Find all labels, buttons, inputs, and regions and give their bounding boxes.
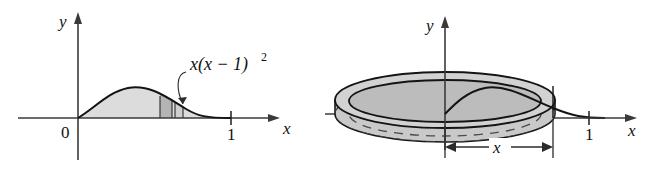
curve-expression-exponent: 2 (261, 50, 267, 64)
panel-solid-of-revolution: y x 1 x (325, 0, 650, 174)
x-tick-label-one: 1 (585, 125, 594, 144)
curve-expression-label: x(x − 1) (189, 54, 248, 75)
left-diagram-svg: y x 0 1 x(x − 1) 2 (0, 0, 325, 174)
x-axis-label: x (627, 121, 636, 140)
dimension-arrowhead-right (542, 142, 553, 152)
right-diagram-svg: y x 1 x (325, 0, 650, 174)
x-axis-arrowhead (268, 114, 280, 122)
dimension-label-x: x (492, 138, 501, 157)
figure-root: y x 0 1 x(x − 1) 2 (0, 0, 650, 174)
y-axis-arrowhead (74, 12, 82, 24)
x-tick-label-one: 1 (227, 125, 236, 144)
x-axis-label: x (282, 119, 291, 138)
leader-arrowhead (178, 97, 187, 104)
origin-label: 0 (61, 123, 70, 142)
y-axis-label: y (57, 12, 67, 31)
y-axis-arrowhead (441, 16, 449, 28)
y-axis-label: y (424, 16, 434, 35)
dimension-arrowhead-left (445, 142, 456, 152)
panel-region-under-curve: y x 0 1 x(x − 1) 2 (0, 0, 325, 174)
